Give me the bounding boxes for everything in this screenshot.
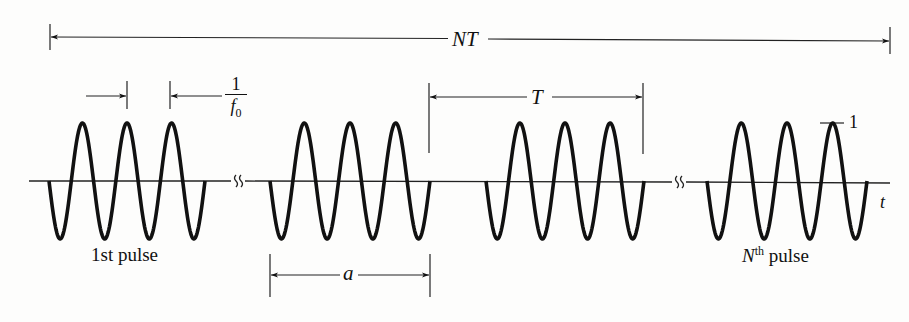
nth-superscript: th: [755, 244, 764, 258]
f-subscript: 0: [236, 106, 242, 120]
period-label: T: [531, 87, 543, 108]
carrier-period-dimension: [86, 81, 222, 109]
pulse-nth: [707, 123, 867, 239]
pulse-third: [486, 123, 644, 239]
carrier-period-label: 1 f0: [225, 75, 247, 123]
time-axis-label: t: [880, 193, 885, 211]
pulse-width-label: a: [343, 263, 354, 284]
nt-label: NT: [452, 29, 478, 50]
time-axis: [29, 181, 890, 183]
carrier-period-numerator: 1: [225, 75, 247, 93]
fraction-bar: [225, 94, 247, 95]
nth-pulse-label: Nth pulse: [742, 245, 809, 265]
nth-pulse-word: pulse: [764, 245, 809, 266]
nth-n: N: [742, 245, 755, 266]
amplitude-label: 1: [849, 113, 858, 131]
pulse-train-diagram: NT 1 f0 T a 1 t 1st pulse Nth pulse: [0, 0, 909, 322]
first-pulse-label: 1st pulse: [91, 245, 158, 264]
carrier-period-denominator: f0: [225, 96, 247, 123]
